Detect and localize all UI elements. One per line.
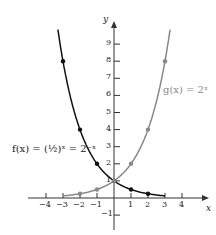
y-axis-label: y [103, 14, 108, 24]
y-tick-label: 3 [106, 141, 111, 150]
x-axis-arrow-icon [202, 195, 209, 201]
y-tick-label: 4 [106, 124, 111, 133]
x-tick-label: −2 [73, 200, 85, 209]
y-tick-label: 1 [106, 175, 111, 184]
y-tick-label: 2 [106, 158, 111, 167]
x-tick-label: 2 [145, 200, 150, 209]
y-axis-arrow-icon [111, 21, 117, 28]
f-function-label: f(x) = (½)ˣ = 2⁻ˣ [12, 143, 96, 154]
g-function-label: g(x) = 2ˣ [163, 84, 208, 95]
y-tick-label: 7 [106, 72, 111, 81]
y-tick-label: 9 [106, 38, 111, 47]
y-tick-label: −1 [101, 209, 113, 218]
x-tick-label: −1 [90, 200, 102, 209]
x-tick-label: 4 [179, 200, 184, 209]
y-tick-label: 5 [106, 107, 111, 116]
x-axis-label: x [206, 203, 211, 213]
x-tick-label: −3 [56, 200, 68, 209]
x-tick-label: −4 [39, 200, 51, 209]
x-tick-label: 1 [128, 200, 133, 209]
f-curve [58, 30, 165, 196]
x-tick-label: 3 [162, 200, 167, 209]
y-tick-label: 6 [106, 89, 111, 98]
y-tick-label: 8 [106, 55, 111, 64]
